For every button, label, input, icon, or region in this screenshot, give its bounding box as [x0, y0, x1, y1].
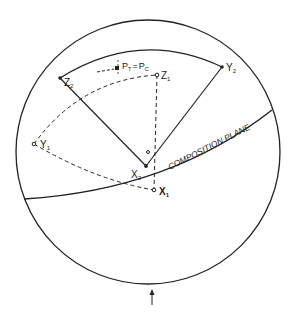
label-z2: Z2	[64, 77, 74, 89]
arc-y1-x1-dashed	[34, 144, 154, 190]
point-z1	[155, 73, 159, 77]
viewing-direction-arrow	[150, 289, 155, 305]
point-y2	[220, 65, 224, 69]
label-x2: X2	[131, 169, 142, 181]
point-z2	[58, 76, 62, 80]
label-pt-equals-pc: PT=PC	[122, 61, 149, 72]
composition-plane-arc	[24, 110, 272, 199]
label-composition-plane: COMPOSITION PLANE	[166, 122, 252, 172]
label-z1: Z1	[161, 70, 171, 82]
arc-y1-z1-dashed	[34, 75, 157, 144]
center-point	[147, 151, 150, 154]
label-y2: Y2	[226, 62, 237, 74]
label-y1: Y1	[40, 139, 51, 151]
point-y1	[32, 142, 36, 146]
label-x1: X1	[159, 186, 170, 198]
point-x1	[152, 188, 156, 192]
point-x2	[144, 164, 148, 168]
p-leader-dashed	[97, 69, 114, 72]
point-p	[115, 66, 119, 70]
line-z2-x2	[60, 78, 146, 166]
stereographic-diagram: Z1 Z2 Y1 Y2 X1 X2 PT=PC COMPOSITION PLAN…	[0, 0, 292, 318]
